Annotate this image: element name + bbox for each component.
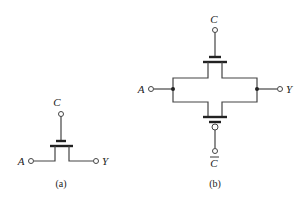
circuit-diagram: C A Y (a) C C A bbox=[0, 0, 305, 201]
inversion-bubble bbox=[212, 124, 218, 130]
caption-b: (b) bbox=[209, 178, 221, 190]
source-wire-a bbox=[34, 146, 55, 161]
figure-b: C C A Y (b) bbox=[137, 13, 294, 190]
label-a-a: A bbox=[17, 155, 25, 167]
gate-terminal-top bbox=[213, 28, 218, 33]
label-c-a: C bbox=[53, 96, 61, 108]
drain-wire-a bbox=[69, 146, 93, 161]
label-c-top: C bbox=[210, 13, 218, 25]
left-rail bbox=[173, 62, 208, 117]
junction-left bbox=[171, 87, 175, 91]
input-terminal-a bbox=[29, 159, 34, 164]
label-a-b: A bbox=[137, 83, 145, 95]
junction-right bbox=[255, 87, 259, 91]
output-terminal-a bbox=[94, 159, 99, 164]
label-y-a: Y bbox=[102, 155, 110, 167]
figure-a: C A Y (a) bbox=[17, 96, 110, 190]
caption-a: (a) bbox=[55, 178, 66, 190]
right-rail bbox=[222, 62, 257, 117]
input-terminal-b bbox=[149, 87, 154, 92]
label-c-bar: C bbox=[210, 157, 218, 169]
label-y-b: Y bbox=[286, 83, 294, 95]
gate-terminal-bottom bbox=[213, 149, 218, 154]
gate-terminal-a bbox=[59, 112, 64, 117]
output-terminal-b bbox=[278, 87, 283, 92]
